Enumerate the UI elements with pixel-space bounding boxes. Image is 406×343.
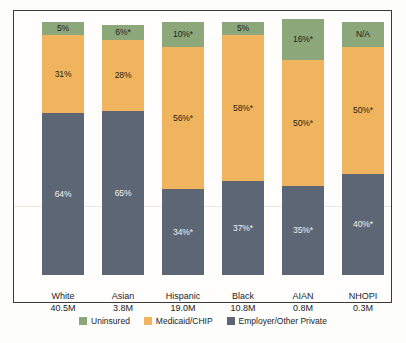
legend-label: Medicaid/CHIP [156,316,213,326]
bar-segment-label: 35%* [293,226,313,235]
bar-segment-label: 40%* [353,220,373,229]
bar-group[interactable]: 16%*50%*35%* [282,19,324,275]
bar-segment-medicaid[interactable]: 58%* [222,35,264,182]
bar-segment-label: 5% [57,24,69,33]
legend-swatch-medicaid [144,317,152,325]
bar-group[interactable]: 10%*56%*34%* [162,22,204,275]
bar-segment-uninsured[interactable]: 5% [42,22,84,35]
bar-segment-medicaid[interactable]: 31% [42,35,84,113]
legend-label: Employer/Other Private [239,316,327,326]
bar-stack: 16%*50%*35%* [282,19,324,275]
bar-segment-label: 34%* [173,228,193,237]
bar-stack: 10%*56%*34%* [162,22,204,275]
bar-segment-employer[interactable]: 35%* [282,186,324,275]
bar-segment-uninsured[interactable]: N/A [342,22,384,47]
bar-segment-label: 10%* [173,30,193,39]
legend-item[interactable]: Uninsured [79,316,130,326]
legend-swatch-uninsured [79,317,87,325]
bar-segment-employer[interactable]: 37%* [222,181,264,275]
bar-segment-medicaid[interactable]: 28% [102,40,144,111]
chart-legend: UninsuredMedicaid/CHIPEmployer/Other Pri… [0,316,406,326]
bar-segment-employer[interactable]: 34%* [162,189,204,275]
bar-group[interactable]: 5%31%64% [42,22,84,275]
bar-stack: 5%58%*37%* [222,22,264,275]
bar-segment-label: 56%* [173,114,193,123]
bar-segment-medicaid[interactable]: 50%* [342,47,384,174]
bar-segment-medicaid[interactable]: 56%* [162,47,204,189]
bar-segment-label: 16%* [293,35,313,44]
bar-segment-label: 65% [115,189,132,198]
legend-item[interactable]: Medicaid/CHIP [144,316,213,326]
bar-segment-employer[interactable]: 40%* [342,174,384,275]
bar-group[interactable]: N/A50%*40%* [342,22,384,275]
bar-segment-label: 6%* [115,28,130,37]
x-axis-sublabel: 0.3M [328,303,398,315]
bar-segment-uninsured[interactable]: 10%* [162,22,204,47]
bar-segment-label: 50%* [353,106,373,115]
bar-group[interactable]: 5%58%*37%* [222,22,264,275]
bar-segment-uninsured[interactable]: 16%* [282,19,324,59]
bar-segment-employer[interactable]: 65% [102,111,144,275]
bar-segment-label: 58%* [233,104,253,113]
bar-segment-label: 37%* [233,224,253,233]
bar-segment-label: 64% [55,190,72,199]
bars-area: 5%31%64%White40.5M6%*28%65%Asian3.8M10%*… [13,10,392,303]
bar-segment-label: 5% [237,24,249,33]
x-axis-label: NHOPI0.3M [328,291,398,314]
bar-segment-label: 28% [115,71,132,80]
bar-group[interactable]: 6%*28%65% [102,25,144,275]
bar-segment-uninsured[interactable]: 5% [222,22,264,35]
legend-swatch-employer [227,317,235,325]
bar-stack: 6%*28%65% [102,25,144,275]
bar-segment-label: N/A [356,30,370,39]
bar-stack: N/A50%*40%* [342,22,384,275]
bar-segment-employer[interactable]: 64% [42,113,84,275]
bar-segment-uninsured[interactable]: 6%* [102,25,144,40]
stacked-bar-chart: 5%31%64%White40.5M6%*28%65%Asian3.8M10%*… [0,0,406,343]
legend-label: Uninsured [91,316,130,326]
legend-item[interactable]: Employer/Other Private [227,316,327,326]
x-axis-category: NHOPI [328,291,398,303]
bar-segment-medicaid[interactable]: 50%* [282,60,324,187]
bar-segment-label: 50%* [293,119,313,128]
bar-segment-label: 31% [55,70,72,79]
bar-stack: 5%31%64% [42,22,84,275]
